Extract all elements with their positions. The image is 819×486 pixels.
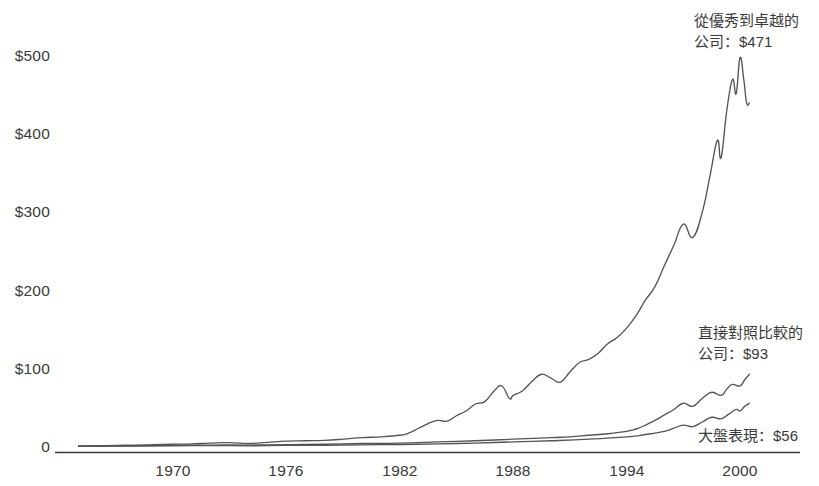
annotation-market-line-1: 大盤表現：$56 <box>698 425 798 446</box>
y-tick-label-100: $100 <box>4 361 50 377</box>
series-line-0 <box>79 57 750 446</box>
y-tick-label-500: $500 <box>4 48 50 64</box>
annotation-good-to-great-line-2: 公司：$471 <box>694 31 799 52</box>
annotation-good-to-great: 從優秀到卓越的 公司：$471 <box>694 10 799 53</box>
x-tick-label-1970: 1970 <box>143 463 203 479</box>
x-tick-label-1982: 1982 <box>370 463 430 479</box>
series-line-1 <box>79 374 750 446</box>
y-tick-label-200: $200 <box>4 283 50 299</box>
y-tick-label-0: 0 <box>4 439 50 455</box>
y-tick-label-300: $300 <box>4 204 50 220</box>
annotation-market: 大盤表現：$56 <box>698 425 798 446</box>
x-tick-label-2000: 2000 <box>710 463 770 479</box>
annotation-good-to-great-line-1: 從優秀到卓越的 <box>694 10 799 31</box>
annotation-comparison: 直接對照比較的 公司：$93 <box>698 322 803 365</box>
annotation-comparison-line-1: 直接對照比較的 <box>698 322 803 343</box>
y-tick-label-400: $400 <box>4 126 50 142</box>
x-tick-label-1994: 1994 <box>597 463 657 479</box>
chart-container: $500 $400 $300 $200 $100 0 1970 1976 198… <box>0 0 819 486</box>
series-line-2 <box>79 403 750 446</box>
chart-plot-area <box>0 0 819 486</box>
x-tick-label-1988: 1988 <box>483 463 543 479</box>
x-tick-label-1976: 1976 <box>256 463 316 479</box>
annotation-comparison-line-2: 公司：$93 <box>698 343 803 364</box>
